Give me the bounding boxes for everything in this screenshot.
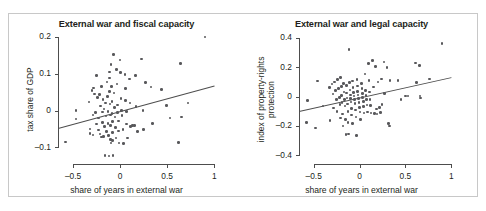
scatter-point [339, 76, 342, 79]
scatter-point [346, 103, 349, 106]
scatter-point [111, 131, 114, 134]
scatter-point [332, 107, 335, 110]
scatter-point [361, 87, 364, 90]
y-tick [55, 111, 59, 112]
y-tick [296, 97, 300, 98]
scatter-point [351, 122, 354, 125]
scatter-point [356, 90, 359, 93]
scatter-point [369, 104, 372, 107]
scatter-point [104, 154, 107, 157]
scatter-point [329, 119, 332, 122]
scatter-point [376, 113, 379, 116]
scatter-point [336, 78, 339, 81]
scatter-point [352, 86, 355, 89]
scatter-point [359, 111, 362, 114]
scatter-point [339, 117, 342, 120]
scatter-point [116, 104, 119, 107]
scatter-point [386, 66, 389, 69]
scatter-point [101, 111, 104, 114]
scatter-point [358, 101, 361, 104]
y-tick-label: –0.2 [276, 120, 292, 130]
scatter-point [347, 121, 350, 124]
scatter-point [113, 106, 116, 109]
x-tick [451, 164, 452, 168]
scatter-point [369, 98, 372, 101]
y-tick-label: 0 [46, 105, 51, 115]
scatter-point [179, 62, 182, 65]
scatter-point [113, 92, 116, 95]
scatter-point [111, 100, 114, 103]
scatter-point [345, 92, 348, 95]
scatter-point [121, 114, 124, 117]
scatter-point [129, 102, 132, 105]
scatter-point [355, 116, 358, 119]
scatter-point [108, 77, 111, 80]
scatter-point [316, 80, 319, 83]
scatter-point [351, 80, 354, 83]
scatter-point [89, 128, 92, 131]
scatter-point [177, 141, 180, 144]
scatter-point [362, 105, 365, 108]
scatter-point [126, 137, 129, 140]
scatter-point [381, 103, 384, 106]
y-tick-label: 0.2 [39, 31, 51, 41]
scatter-point [332, 93, 335, 96]
scatter-point [344, 105, 347, 108]
scatter-point [306, 99, 309, 102]
scatter-point [368, 79, 371, 82]
scatter-point [361, 96, 364, 99]
scatter-point [342, 125, 345, 128]
y-tick-label: 0.4 [280, 32, 292, 42]
scatter-point [98, 93, 101, 96]
scatter-point [336, 110, 339, 113]
scatter-point [348, 48, 351, 51]
x-tick-label: 0 [100, 171, 140, 181]
panel-title-right: External war and legal capacity [244, 19, 479, 29]
scatter-point [383, 61, 386, 64]
x-tick [73, 164, 74, 168]
scatter-point [115, 137, 118, 140]
scatter-point [428, 78, 431, 81]
scatter-point [105, 130, 108, 133]
scatter-point [89, 132, 92, 135]
scatter-point [397, 79, 400, 82]
scatter-point [347, 110, 350, 113]
x-tick-label: 1 [431, 171, 471, 181]
scatter-point [377, 81, 380, 84]
scatter-point [353, 95, 356, 98]
scatter-point [102, 135, 105, 138]
scatter-point [93, 93, 96, 96]
scatter-point [389, 79, 392, 82]
scatter-point [124, 73, 127, 76]
scatter-point [75, 109, 78, 112]
scatter-point [359, 118, 362, 121]
y-tick [296, 155, 300, 156]
plot-area-left: –0.100.10.2–0.500.51 [58, 35, 218, 164]
scatter-point [109, 124, 112, 127]
scatter-point [407, 95, 410, 98]
x-tick-label: 0 [340, 171, 380, 181]
y-tick [55, 37, 59, 38]
y-tick [296, 126, 300, 127]
y-tick-label: 0.1 [39, 68, 51, 78]
scatter-point [322, 105, 325, 108]
scatter-point [355, 134, 358, 137]
scatter-point [115, 68, 118, 71]
x-tick [360, 164, 361, 168]
scatter-point [120, 97, 123, 100]
scatter-point [366, 104, 369, 107]
scatter-point [64, 141, 67, 144]
scatter-point [187, 102, 190, 105]
scatter-point [107, 134, 110, 137]
x-axis-label-right: share of years in external war [244, 185, 479, 195]
scatter-point [352, 91, 355, 94]
scatter-point [95, 74, 98, 77]
scatter-point [165, 104, 168, 107]
scatter-point [107, 110, 110, 113]
scatter-point [100, 85, 103, 88]
scatter-point [92, 114, 95, 117]
scatter-point [354, 109, 357, 112]
scatter-point [441, 42, 444, 45]
scatter-point [350, 101, 353, 104]
y-tick-label: 0 [287, 91, 292, 101]
